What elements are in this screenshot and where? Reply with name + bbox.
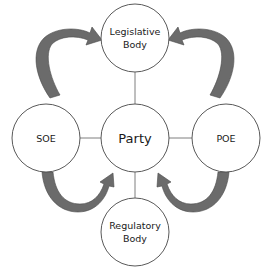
legislative-label-line1: Legislative <box>110 26 161 37</box>
curved-arrow-poe-to-party <box>157 172 229 212</box>
influence-diagram: Legislative Body Party SOE POE Regulator… <box>0 0 270 279</box>
regulatory-label-line2: Body <box>123 233 147 244</box>
poe-label: POE <box>216 133 235 144</box>
curved-arrow-soe-to-party <box>42 172 114 212</box>
curved-arrow-soe-to-legislative <box>36 27 102 98</box>
legislative-label-line2: Body <box>123 39 147 50</box>
node-soe: SOE <box>12 104 80 172</box>
node-regulatory-body: Regulatory Body <box>101 198 169 266</box>
curved-arrow-poe-to-legislative <box>168 27 234 98</box>
node-poe: POE <box>192 104 260 172</box>
node-legislative-body: Legislative Body <box>101 4 169 72</box>
party-label: Party <box>118 131 152 146</box>
regulatory-label-line1: Regulatory <box>109 220 161 231</box>
soe-label: SOE <box>36 133 56 144</box>
node-party: Party <box>101 104 169 172</box>
